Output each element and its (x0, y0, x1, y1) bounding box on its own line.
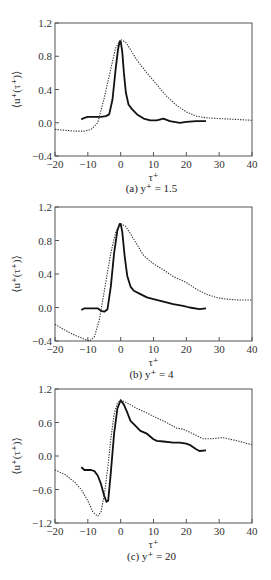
y-tick-label: 0.0 (38, 117, 52, 129)
y-tick-label: 0.4 (38, 84, 52, 96)
x-tick-label: 30 (214, 343, 226, 355)
x-axis-label: τ⁺ (148, 538, 158, 550)
x-tick-label: 40 (247, 343, 259, 355)
x-tick-label: 20 (181, 343, 193, 355)
y-tick-label: 1.2 (38, 17, 52, 29)
plot-frame (55, 207, 252, 341)
subplot-caption: (c) y⁺ = 20 (127, 550, 176, 563)
x-tick-label: 40 (247, 158, 259, 170)
y-tick-label: −0.4 (32, 150, 52, 162)
x-tick-label: −10 (79, 158, 97, 170)
y-tick-label: 1.2 (38, 201, 52, 213)
y-tick-label: 0.0 (38, 302, 52, 314)
subplot-caption: (a) y⁺ = 1.5 (126, 182, 178, 195)
y-tick-label: 0.8 (38, 235, 52, 247)
x-tick-label: 20 (181, 158, 193, 170)
x-axis-label: τ⁺ (148, 356, 158, 368)
y-tick-label: −0.4 (32, 335, 52, 347)
x-tick-label: 10 (148, 158, 160, 170)
x-tick-label: 10 (148, 343, 160, 355)
y-tick-label: 0.0 (38, 450, 52, 462)
y-tick-label: −1.2 (32, 517, 52, 529)
plot-frame (55, 23, 252, 156)
y-axis-label: ⟨u⁺(τ⁺)⟩ (10, 255, 23, 292)
series-solid-line (81, 224, 206, 312)
x-tick-label: 0 (118, 525, 124, 537)
x-tick-label: −10 (79, 343, 97, 355)
y-tick-label: 0.8 (38, 50, 52, 62)
y-tick-label: −0.6 (32, 484, 52, 496)
x-tick-label: 20 (181, 525, 193, 537)
x-tick-label: 0 (118, 343, 124, 355)
y-axis-label: ⟨u⁺(τ⁺)⟩ (10, 71, 23, 108)
series-dotted-line (55, 400, 252, 516)
x-tick-label: 10 (148, 525, 160, 537)
x-tick-label: −10 (79, 525, 97, 537)
figure: −20−10010203040−0.40.00.40.81.2⟨u⁺(τ⁺)⟩τ… (0, 0, 271, 580)
subplot-caption: (b) y⁺ = 4 (129, 368, 174, 381)
x-tick-label: 40 (247, 525, 259, 537)
y-tick-label: 0.6 (38, 417, 52, 429)
x-tick-label: 30 (214, 158, 226, 170)
y-tick-label: 0.4 (38, 268, 52, 280)
x-tick-label: 0 (118, 158, 124, 170)
series-dotted-line (55, 224, 252, 341)
x-tick-label: 30 (214, 525, 226, 537)
plot-frame (55, 389, 252, 523)
series-solid-line (81, 41, 206, 123)
y-tick-label: 1.2 (38, 383, 52, 395)
series-solid-line (81, 400, 206, 502)
y-axis-label: ⟨u⁺(τ⁺)⟩ (10, 437, 23, 474)
